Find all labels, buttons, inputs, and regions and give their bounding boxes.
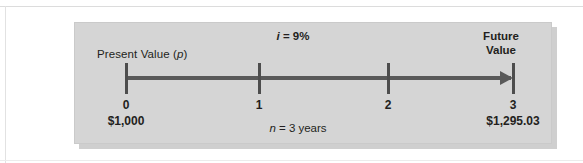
timeline-tick-0 (125, 63, 128, 94)
figure-page: Present Value (p) i = 9% Future Value 0 … (0, 0, 583, 163)
periods-label: n = 3 years (75, 122, 551, 134)
present-value-label: Present Value (p) (97, 48, 187, 60)
page-rule-top (0, 6, 583, 7)
timeline-tick-2 (387, 63, 390, 94)
future-value-label-line2: Value (453, 43, 549, 57)
period-label-2: 2 (333, 97, 443, 113)
timeline-caption-2: 2 (333, 97, 443, 113)
future-value-label: Future Value (453, 29, 549, 57)
page-rule-bottom (0, 160, 583, 161)
present-value-label-prefix: Present Value ( (97, 48, 177, 60)
timeline-axis (126, 76, 511, 80)
timeline-tick-3 (512, 63, 515, 94)
page-rule-left (5, 6, 6, 163)
future-value-label-line1: Future (453, 29, 549, 43)
periods-value: = 3 years (276, 122, 327, 134)
interest-rate-value: = 9% (280, 30, 310, 42)
timeline-tick-1 (258, 63, 261, 94)
period-label-0: 0 (71, 97, 181, 113)
timeline-figure-panel: Present Value (p) i = 9% Future Value 0 … (74, 22, 552, 144)
timeline-caption-1: 1 (204, 97, 314, 113)
period-label-1: 1 (204, 97, 314, 113)
present-value-label-suffix: ) (183, 48, 187, 60)
period-label-3: 3 (458, 97, 568, 113)
